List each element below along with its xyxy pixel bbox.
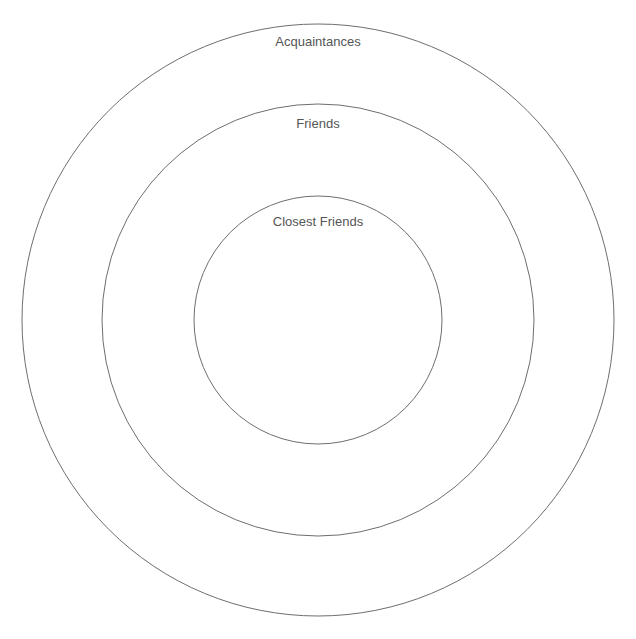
label-closest-friends: Closest Friends [273, 214, 364, 229]
ring-friends [102, 104, 534, 536]
ring-closest-friends [194, 196, 442, 444]
ring-acquaintances [22, 24, 614, 616]
concentric-circles-diagram: Acquaintances Friends Closest Friends [0, 0, 636, 639]
label-friends: Friends [296, 116, 340, 131]
label-acquaintances: Acquaintances [275, 34, 361, 49]
